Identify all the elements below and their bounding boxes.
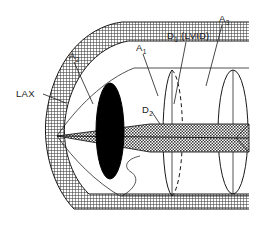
label-a3-sub: 3 (226, 19, 230, 26)
a2-short-axis-disc (96, 83, 124, 179)
figure-root: LAX A2 A1 D1 (LVID) A3 D2 (0, 0, 265, 229)
label-a2-sub: 2 (76, 56, 80, 63)
myocardial-shell (0, 0, 265, 229)
label-a1-sub: 1 (143, 48, 147, 55)
a2-disc-ellipse (96, 83, 124, 179)
label-lax-base: LAX (16, 88, 35, 99)
label-d1-suffix: (LVID) (178, 30, 209, 41)
label-d1-base: D (167, 30, 174, 41)
label-lax: LAX (16, 88, 35, 99)
label-d1-lvid: D1 (LVID) (167, 30, 210, 43)
lv-geometry-diagram: LAX A2 A1 D1 (LVID) A3 D2 (0, 0, 265, 229)
label-d2-sub: 2 (149, 110, 153, 117)
label-d2-base: D (142, 104, 149, 115)
